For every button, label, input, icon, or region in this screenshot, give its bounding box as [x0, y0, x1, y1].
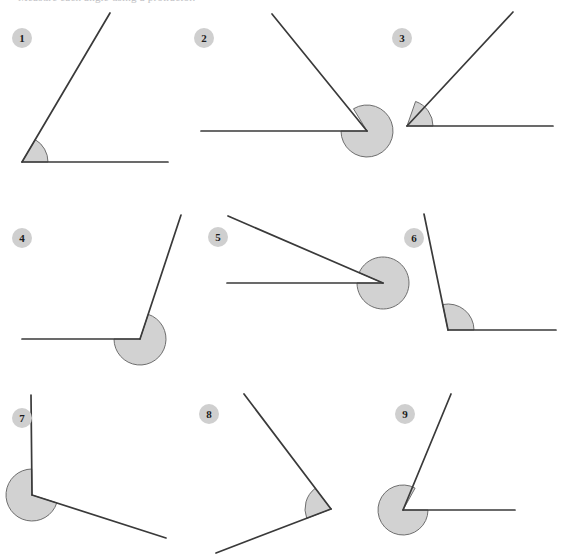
angle-number-badge-5: 5 — [208, 227, 228, 247]
angle-ray-a-7 — [31, 395, 32, 495]
angle-figures-canvas — [0, 0, 566, 557]
angle-number-badge-6: 6 — [404, 228, 424, 248]
worksheet-page: Measure each angle using a protractor. 1… — [0, 0, 566, 557]
angle-number-badge-2: 2 — [194, 28, 214, 48]
angle-figure-4 — [22, 215, 181, 365]
angle-ray-b-8 — [216, 509, 331, 553]
angle-ray-b-1 — [22, 13, 110, 162]
angle-ray-b-7 — [32, 495, 166, 538]
angle-ray-a-8 — [244, 394, 331, 509]
angle-ray-b-6 — [424, 214, 448, 330]
angle-ray-b-3 — [407, 12, 513, 126]
angle-ray-b-5 — [228, 216, 383, 283]
angle-figure-8 — [216, 394, 331, 553]
angle-number-badge-8: 8 — [199, 404, 219, 424]
angle-number-badge-1: 1 — [12, 28, 32, 48]
angle-figure-3 — [407, 12, 553, 126]
angle-number-badge-9: 9 — [395, 404, 415, 424]
angle-figure-1 — [22, 13, 168, 162]
angle-number-badge-3: 3 — [392, 28, 412, 48]
angle-figure-2 — [201, 14, 393, 157]
angle-ray-b-4 — [140, 215, 181, 339]
angle-figure-6 — [424, 214, 556, 330]
angle-number-badge-4: 4 — [12, 228, 32, 248]
angle-arc-1 — [22, 140, 48, 162]
angle-number-badge-7: 7 — [12, 408, 32, 428]
angle-figure-5 — [227, 216, 409, 309]
angle-ray-b-2 — [272, 14, 367, 131]
